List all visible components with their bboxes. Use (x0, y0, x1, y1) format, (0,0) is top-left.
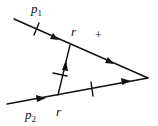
arrow-lower-1 (36, 95, 46, 102)
arrow-lower-2 (121, 78, 131, 85)
diagram-lines (0, 0, 158, 126)
cut-mark-lower (91, 82, 93, 96)
upper-line (14, 19, 148, 78)
arrow-upper-1 (50, 33, 59, 40)
arrow-upper-2 (105, 57, 114, 64)
label-p1: p1 (31, 2, 42, 15)
label-r-upper: r (71, 25, 76, 38)
cut-mark-rung (53, 73, 67, 76)
label-plus-sign: + (95, 29, 102, 41)
arrow-rung (62, 60, 68, 71)
label-r-lower: r (56, 105, 61, 118)
feynman-diagram: p1 r + p2 r (0, 0, 158, 126)
label-p2: p2 (25, 108, 36, 121)
